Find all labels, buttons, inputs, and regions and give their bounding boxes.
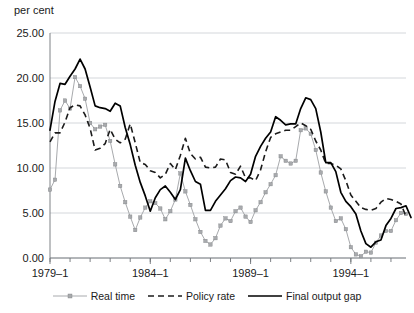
x-axis-tick-label: 1984–1	[132, 267, 169, 279]
y-axis-tick-label: 25.00	[16, 27, 44, 39]
series-marker-real-time	[284, 159, 287, 162]
x-axis-tick-label: 1994–1	[332, 267, 369, 279]
series-marker-real-time	[219, 224, 222, 227]
series-marker-real-time	[93, 128, 96, 131]
series-marker-real-time	[53, 178, 56, 181]
series-marker-real-time	[149, 200, 152, 203]
series-marker-real-time	[73, 75, 76, 78]
series-marker-real-time	[139, 216, 142, 219]
x-axis-ticks: 1979–11984–11989–11994–1	[32, 258, 391, 279]
series-marker-real-time	[329, 206, 332, 209]
series-marker-real-time	[334, 219, 337, 222]
chart-container: per cent 0.005.0010.0015.0020.0025.00 19…	[0, 0, 414, 313]
series-marker-real-time	[199, 230, 202, 233]
series-marker-real-time	[319, 171, 322, 174]
series-marker-real-time	[344, 228, 347, 231]
series-marker-real-time	[234, 210, 237, 213]
gridlines	[50, 33, 406, 258]
series-marker-real-time	[58, 109, 61, 112]
series-marker-real-time	[399, 211, 402, 214]
series-marker-real-time	[314, 148, 317, 151]
series-marker-real-time	[239, 206, 242, 209]
series-marker-real-time	[113, 163, 116, 166]
series-marker-real-time	[359, 255, 362, 258]
policy-rate-dashed-line-icon	[148, 291, 182, 301]
real-time-line-icon	[53, 291, 87, 301]
series-marker-real-time	[269, 183, 272, 186]
y-axis-tick-label: 20.00	[16, 72, 44, 84]
series-marker-real-time	[184, 190, 187, 193]
series-line-final-output-gap	[50, 59, 411, 247]
series-marker-real-time	[204, 239, 207, 242]
series-marker-real-time	[354, 253, 357, 256]
series-marker-real-time	[83, 97, 86, 100]
series-marker-real-time	[249, 220, 252, 223]
series-marker-real-time	[389, 229, 392, 232]
series-marker-real-time	[124, 201, 127, 204]
series-marker-real-time	[108, 139, 111, 142]
series-marker-real-time	[129, 215, 132, 218]
series-marker-real-time	[164, 218, 167, 221]
series-marker-real-time	[224, 217, 227, 220]
series-marker-real-time	[274, 174, 277, 177]
y-axis-tick-label: 5.00	[23, 207, 44, 219]
x-axis-tick-label: 1979–1	[32, 267, 69, 279]
series-marker-real-time	[264, 191, 267, 194]
series-marker-real-time	[259, 201, 262, 204]
series-marker-real-time	[179, 172, 182, 175]
final-output-gap-solid-line-icon	[248, 291, 282, 301]
series-marker-real-time	[369, 251, 372, 254]
legend-label-policy-rate: Policy rate	[186, 290, 235, 302]
y-axis-tick-label: 0.00	[23, 252, 44, 264]
series-marker-real-time	[103, 123, 106, 126]
series-lines	[48, 59, 411, 258]
legend-item-final-output-gap[interactable]: Final output gap	[248, 290, 361, 302]
series-marker-real-time	[364, 250, 367, 253]
legend-label-real-time: Real time	[91, 290, 135, 302]
series-marker-real-time	[394, 219, 397, 222]
series-marker-real-time	[194, 218, 197, 221]
series-marker-real-time	[254, 209, 257, 212]
y-axis-tick-label: 10.00	[16, 162, 44, 174]
plot-area: 0.005.0010.0015.0020.0025.00 1979–11984–…	[0, 0, 414, 290]
series-marker-real-time	[118, 184, 121, 187]
series-marker-real-time	[289, 162, 292, 165]
series-marker-real-time	[304, 127, 307, 130]
series-marker-real-time	[209, 243, 212, 246]
series-line-policy-rate	[50, 105, 406, 217]
y-axis-tick-label: 15.00	[16, 117, 44, 129]
legend-item-real-time[interactable]: Real time	[53, 290, 135, 302]
series-marker-real-time	[98, 125, 101, 128]
legend-item-policy-rate[interactable]: Policy rate	[148, 290, 235, 302]
series-marker-real-time	[78, 84, 81, 87]
y-axis-ticks: 0.005.0010.0015.0020.0025.00	[16, 27, 44, 264]
series-marker-real-time	[244, 215, 247, 218]
series-marker-real-time	[169, 210, 172, 213]
series-marker-real-time	[48, 188, 51, 191]
series-marker-real-time	[144, 206, 147, 209]
series-marker-real-time	[339, 217, 342, 220]
series-marker-real-time	[134, 228, 137, 231]
series-marker-real-time	[159, 207, 162, 210]
chart-legend: Real time Policy rate Final output gap	[0, 290, 414, 302]
series-marker-real-time	[214, 237, 217, 240]
series-marker-real-time	[349, 246, 352, 249]
series-marker-real-time	[229, 219, 232, 222]
series-marker-real-time	[189, 203, 192, 206]
series-marker-real-time	[299, 129, 302, 132]
legend-label-final-output-gap: Final output gap	[286, 290, 361, 302]
series-marker-real-time	[324, 190, 327, 193]
series-marker-real-time	[294, 159, 297, 162]
series-marker-real-time	[63, 99, 66, 102]
series-marker-real-time	[279, 155, 282, 158]
x-axis-tick-label: 1989–1	[232, 267, 269, 279]
